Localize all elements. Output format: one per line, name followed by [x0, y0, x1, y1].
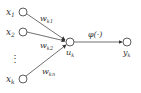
input-label-2: x2 [6, 27, 15, 38]
input-label-k: xk [6, 74, 15, 85]
weight-label-2: wk2 [40, 41, 53, 51]
weight-label-k: wkn [42, 67, 55, 77]
input-node-k [19, 75, 27, 83]
output-node-label: yk [122, 48, 131, 58]
sum-node [66, 38, 74, 46]
output-node [123, 38, 131, 46]
ellipsis: ⋮ [10, 53, 20, 64]
input-label-1: x1 [6, 7, 15, 18]
sum-node-label: uk [66, 48, 74, 58]
neuron-diagram: x1 x2 xk ⋮ wk1 wk2 wkn uk φ(·) yk [0, 0, 141, 93]
input-node-1 [19, 8, 27, 16]
activation-label: φ(·) [88, 30, 102, 39]
weight-label-1: wk1 [40, 14, 53, 24]
input-node-2 [19, 28, 27, 36]
